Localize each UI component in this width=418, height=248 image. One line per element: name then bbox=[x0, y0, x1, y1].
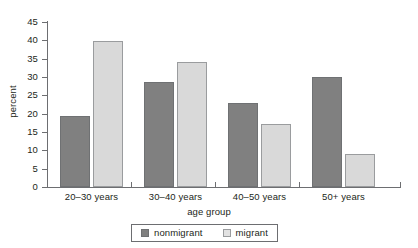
y-axis-tick-label: 0 bbox=[14, 182, 38, 192]
legend-swatch-migrant bbox=[223, 229, 231, 237]
x-axis-group-tick bbox=[131, 182, 132, 188]
x-axis-group-tick bbox=[215, 182, 216, 188]
y-axis-tick bbox=[42, 169, 47, 170]
y-axis-tick bbox=[42, 40, 47, 41]
legend-item-nonmigrant[interactable]: nonmigrant bbox=[141, 228, 203, 238]
x-axis-category-label: 40–50 years bbox=[215, 191, 305, 203]
x-axis-category-label: 30–40 years bbox=[131, 191, 221, 203]
y-axis-tick bbox=[42, 114, 47, 115]
bar-nonmigrant-3 bbox=[312, 77, 342, 187]
y-axis-tick-label: 15 bbox=[14, 127, 38, 137]
y-axis-tick-label: 30 bbox=[14, 72, 38, 82]
y-axis-tick bbox=[42, 95, 47, 96]
bar-chart: percent 051015202530354045 20–30 years30… bbox=[0, 0, 418, 248]
legend-label-nonmigrant: nonmigrant bbox=[154, 228, 203, 238]
chart-legend: nonmigrantmigrant bbox=[131, 224, 278, 242]
bar-nonmigrant-1 bbox=[144, 82, 174, 187]
y-axis-tick-label: 10 bbox=[14, 145, 38, 155]
y-axis-tick bbox=[42, 59, 47, 60]
y-axis-tick-label: 35 bbox=[14, 54, 38, 64]
y-axis-tick bbox=[42, 22, 47, 23]
x-axis-title: age group bbox=[0, 206, 418, 217]
x-axis-group-tick bbox=[299, 182, 300, 188]
y-axis-tick bbox=[42, 132, 47, 133]
y-axis-tick bbox=[42, 187, 47, 188]
legend-item-migrant[interactable]: migrant bbox=[223, 228, 268, 238]
bar-migrant-3 bbox=[345, 154, 375, 187]
y-axis-tick bbox=[42, 77, 47, 78]
bar-migrant-0 bbox=[93, 41, 123, 187]
legend-label-migrant: migrant bbox=[236, 228, 268, 238]
y-axis-tick-label: 5 bbox=[14, 164, 38, 174]
bar-nonmigrant-2 bbox=[228, 103, 258, 187]
x-axis-category-label: 20–30 years bbox=[47, 191, 137, 203]
y-axis-tick-label: 20 bbox=[14, 109, 38, 119]
bar-migrant-2 bbox=[261, 124, 291, 187]
bar-nonmigrant-0 bbox=[60, 116, 90, 187]
x-axis-category-label: 50+ years bbox=[299, 191, 389, 203]
legend-swatch-nonmigrant bbox=[141, 229, 149, 237]
plot-area bbox=[48, 22, 400, 187]
x-axis-line bbox=[47, 187, 401, 188]
y-axis-tick bbox=[42, 150, 47, 151]
y-axis-tick-label: 40 bbox=[14, 35, 38, 45]
x-axis-end-tick bbox=[400, 182, 401, 188]
bar-migrant-1 bbox=[177, 62, 207, 187]
y-axis-tick-label: 25 bbox=[14, 90, 38, 100]
y-axis-tick-label: 45 bbox=[14, 17, 38, 27]
